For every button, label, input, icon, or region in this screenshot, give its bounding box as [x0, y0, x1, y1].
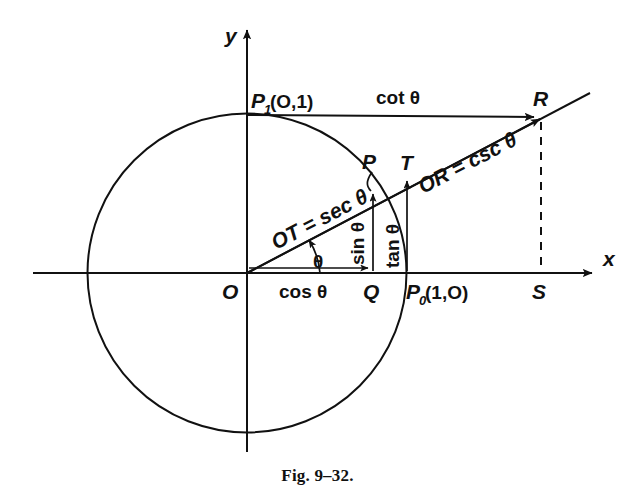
label-csc: OR = csc θ — [414, 127, 521, 198]
label-point-p0-coords: (1,O) — [425, 282, 468, 303]
trigonometry-unit-circle-diagram: y x O P 1 (O,1) P 0 (1,O) P T Q R S θ co… — [0, 0, 635, 499]
label-origin: O — [222, 280, 238, 303]
label-point-s: S — [532, 280, 546, 303]
label-point-p0-group: P 0 (1,O) — [406, 280, 468, 308]
label-cot: cot θ — [376, 87, 420, 108]
figure-container: y x O P 1 (O,1) P 0 (1,O) P T Q R S θ co… — [0, 0, 635, 499]
label-tan: tan θ — [382, 224, 403, 268]
label-cos: cos θ — [279, 281, 327, 302]
label-sin: sin θ — [347, 222, 368, 265]
label-point-p: P — [362, 150, 377, 173]
label-point-q: Q — [363, 280, 379, 303]
label-point-t: T — [400, 151, 415, 174]
label-angle-theta: θ — [313, 251, 323, 272]
label-point-r: R — [533, 87, 549, 110]
figure-caption: Fig. 9–32. — [0, 466, 635, 486]
x-axis-label: x — [602, 247, 616, 270]
y-axis-label: y — [224, 24, 238, 47]
label-point-p1-group: P 1 (O,1) — [251, 89, 313, 117]
point-p-leader — [367, 172, 372, 191]
segment-cot — [247, 115, 534, 117]
label-point-p1-coords: (O,1) — [270, 91, 313, 112]
